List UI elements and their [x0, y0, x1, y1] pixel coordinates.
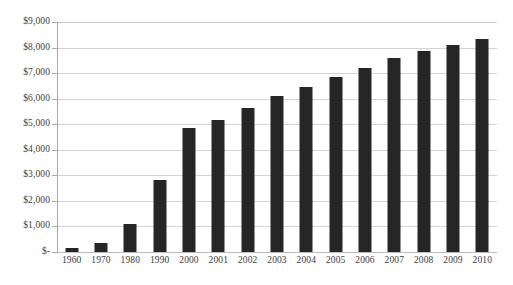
y-axis-tick: [52, 22, 57, 23]
y-axis-tick-label: $1,000: [2, 220, 50, 230]
y-axis-tick-label: $4,000: [2, 144, 50, 154]
y-axis-labels: $9,000$8,000$7,000$6,000$5,000$4,000$3,0…: [0, 0, 50, 285]
bar: [65, 248, 78, 252]
x-axis-tick-label: 1980: [116, 255, 145, 265]
bar-slot: [409, 22, 438, 252]
bar: [94, 243, 107, 252]
x-axis-tick-label: 2006: [350, 255, 379, 265]
y-axis-tick-label: $7,000: [2, 67, 50, 77]
y-axis-tick-label: $5,000: [2, 118, 50, 128]
y-axis-tick-label: $6,000: [2, 93, 50, 103]
bar: [476, 39, 489, 252]
y-axis-tick: [52, 73, 57, 74]
x-axis-tick-label: 2004: [292, 255, 321, 265]
x-axis-tick-label: 2005: [321, 255, 350, 265]
bar: [388, 58, 401, 252]
y-axis-tick-label: $-: [2, 246, 50, 256]
bar: [212, 120, 225, 252]
bar-slot: [292, 22, 321, 252]
bar-slot: [57, 22, 86, 252]
bar-slot: [262, 22, 291, 252]
y-axis-tick: [52, 252, 57, 253]
y-axis-tick: [52, 201, 57, 202]
bar-slot: [438, 22, 467, 252]
bar: [124, 224, 137, 252]
bar-slot: [145, 22, 174, 252]
y-axis-tick: [52, 124, 57, 125]
x-axis-tick-label: 2007: [380, 255, 409, 265]
bar: [329, 77, 342, 252]
bar-slot: [204, 22, 233, 252]
y-axis-tick-label: $2,000: [2, 195, 50, 205]
bar-chart: $9,000$8,000$7,000$6,000$5,000$4,000$3,0…: [0, 0, 513, 285]
x-axis-tick-label: 2001: [204, 255, 233, 265]
gridline: [57, 252, 497, 253]
bar-slot: [86, 22, 115, 252]
bar: [182, 128, 195, 252]
bar-slot: [380, 22, 409, 252]
bar-slot: [116, 22, 145, 252]
y-axis-tick-label: $8,000: [2, 42, 50, 52]
x-axis-tick-label: 1970: [86, 255, 115, 265]
x-axis-tick-label: 1960: [57, 255, 86, 265]
x-axis-tick-label: 2000: [174, 255, 203, 265]
bar-slot: [233, 22, 262, 252]
bar: [153, 180, 166, 252]
y-axis-tick: [52, 48, 57, 49]
bar-slot: [468, 22, 497, 252]
bar-slot: [350, 22, 379, 252]
bar-slot: [321, 22, 350, 252]
x-axis-tick-label: 2008: [409, 255, 438, 265]
x-axis-tick-label: 2003: [262, 255, 291, 265]
bar-slot: [174, 22, 203, 252]
y-axis-tick: [52, 99, 57, 100]
y-axis-tick: [52, 226, 57, 227]
bar: [446, 45, 459, 253]
bars-layer: [57, 22, 497, 252]
bar: [270, 96, 283, 252]
bar: [300, 87, 313, 252]
x-axis-tick-label: 2002: [233, 255, 262, 265]
y-axis-tick: [52, 150, 57, 151]
y-axis-tick: [52, 175, 57, 176]
y-axis-tick-label: $9,000: [2, 16, 50, 26]
bar: [241, 108, 254, 252]
x-axis-tick-label: 1990: [145, 255, 174, 265]
x-axis-tick-label: 2010: [468, 255, 497, 265]
bar: [358, 68, 371, 252]
x-axis-labels: 1960197019801990200020012002200320042005…: [57, 255, 497, 275]
bar: [417, 51, 430, 252]
x-axis-tick-label: 2009: [438, 255, 467, 265]
y-axis-tick-label: $3,000: [2, 169, 50, 179]
